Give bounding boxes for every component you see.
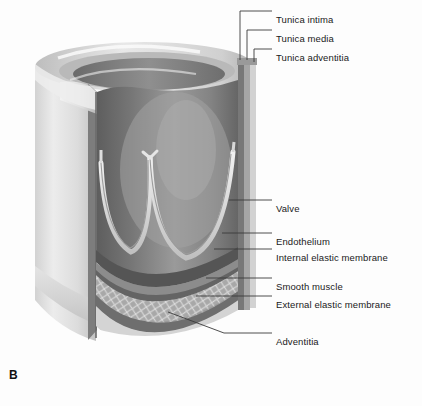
valve-right-attachment xyxy=(233,142,234,152)
tunica-media-band xyxy=(244,60,250,310)
label-tunica-intima: Tunica intima xyxy=(276,14,333,25)
label-valve: Valve xyxy=(276,203,300,214)
tunica-adventitia-band xyxy=(250,60,256,308)
leader-tunica-intima xyxy=(240,11,272,60)
label-adventitia: Adventitia xyxy=(276,336,319,347)
vein-cross-section-figure xyxy=(0,0,422,406)
label-internal-elastic-membrane: Internal elastic membrane xyxy=(276,252,388,263)
tunica-edge-bands xyxy=(237,58,257,310)
tunica-intima-band xyxy=(238,60,244,310)
lumen-backwall-highlight-2 xyxy=(156,100,216,200)
label-external-elastic-membrane: External elastic membrane xyxy=(276,299,391,310)
label-smooth-muscle: Smooth muscle xyxy=(276,281,343,292)
vein-illustration xyxy=(0,0,422,406)
label-tunica-media: Tunica media xyxy=(276,33,334,44)
label-endothelium: Endothelium xyxy=(276,236,330,247)
label-tunica-adventitia: Tunica adventitia xyxy=(276,52,349,63)
panel-letter-b: B xyxy=(9,368,18,382)
leader-tunica-media xyxy=(247,30,272,60)
